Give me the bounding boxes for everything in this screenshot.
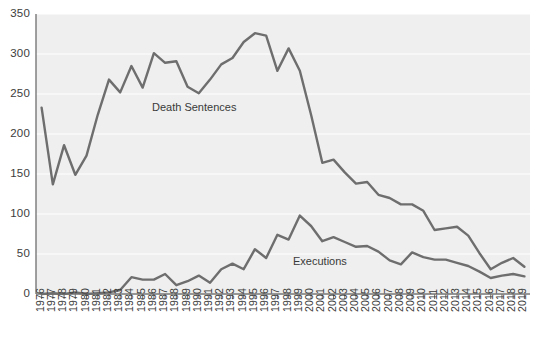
x-tick-label-2010: 2010 [415, 288, 427, 312]
series-lines-group [42, 33, 525, 294]
x-tick-label-2002: 2002 [326, 288, 338, 312]
x-tick-label-1984: 1984 [123, 288, 135, 312]
x-tick-label-1979: 1979 [67, 288, 79, 312]
x-tick-label-1985: 1985 [135, 288, 147, 312]
x-tick-label-2003: 2003 [337, 288, 349, 312]
x-tick-label-1993: 1993 [224, 288, 236, 312]
line-chart: 050100150200250300350 197619771978197919… [0, 0, 545, 339]
series-line-death-sentences [42, 33, 525, 269]
death-sentences-label: Death Sentences [152, 101, 236, 113]
x-tick-label-2019: 2019 [516, 288, 528, 312]
y-tick-label-200: 200 [0, 127, 30, 139]
y-tick-label-0: 0 [0, 287, 30, 299]
x-tick-label-2012: 2012 [438, 288, 450, 312]
x-tick-label-2006: 2006 [370, 288, 382, 312]
gridlines-group [36, 14, 530, 254]
x-tick-label-2001: 2001 [314, 288, 326, 312]
x-tick-label-2016: 2016 [483, 288, 495, 312]
y-tick-label-300: 300 [0, 47, 30, 59]
y-tick-label-350: 350 [0, 7, 30, 19]
x-tick-label-1998: 1998 [281, 288, 293, 312]
x-tick-label-2007: 2007 [382, 288, 394, 312]
x-tick-label-1981: 1981 [90, 288, 102, 312]
x-tick-label-2011: 2011 [427, 289, 439, 312]
axes-group [36, 14, 530, 294]
x-tick-label-2015: 2015 [471, 288, 483, 312]
y-tick-label-50: 50 [0, 247, 30, 259]
x-tick-label-1989: 1989 [180, 288, 192, 312]
y-tick-label-250: 250 [0, 87, 30, 99]
x-tick-label-1990: 1990 [191, 288, 203, 312]
y-tick-label-100: 100 [0, 207, 30, 219]
x-tick-label-1980: 1980 [79, 288, 91, 312]
y-tick-label-150: 150 [0, 167, 30, 179]
x-tick-label-1976: 1976 [34, 288, 46, 312]
x-tick-label-1988: 1988 [168, 288, 180, 312]
executions-label: Executions [293, 255, 347, 267]
x-tick-label-1994: 1994 [236, 288, 248, 312]
x-tick-label-1997: 1997 [269, 288, 281, 312]
